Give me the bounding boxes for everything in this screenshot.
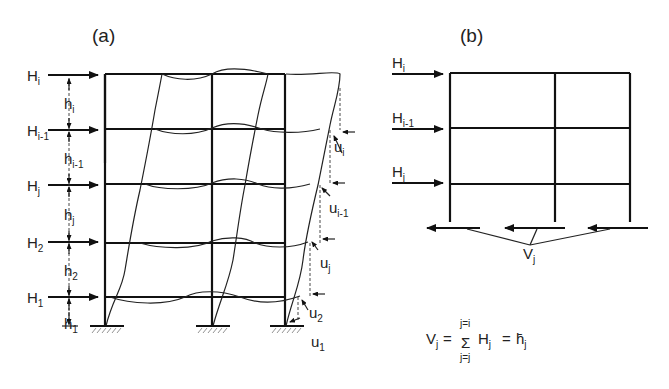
panel-a: (a) <box>27 25 355 353</box>
svg-text:u2: u2 <box>309 304 323 324</box>
svg-text:h̄j: h̄j <box>516 330 527 350</box>
deformed-beams <box>110 69 320 303</box>
svg-text:Vj: Vj <box>426 330 438 350</box>
shear-formula: Vj = j=i Σ j=j Hj = h̄j <box>426 318 527 363</box>
svg-text:Hj: Hj <box>27 177 40 197</box>
svg-text:j=i: j=i <box>459 318 470 329</box>
load-labels-a: Hi Hi-1 Hj H2 H1 <box>27 67 49 309</box>
svg-text:Hi: Hi <box>392 54 405 74</box>
svg-text:hi: hi <box>64 95 75 115</box>
svg-text:ui: ui <box>334 138 345 158</box>
svg-text:Hi: Hi <box>27 67 40 87</box>
svg-text:Hi-1: Hi-1 <box>27 122 49 142</box>
deformed-columns <box>106 73 340 326</box>
svg-text:uj: uj <box>320 254 331 274</box>
svg-text:Hi-1: Hi-1 <box>392 109 414 129</box>
svg-text:h2: h2 <box>64 262 78 282</box>
svg-text:=: = <box>443 330 452 347</box>
svg-text:h1: h1 <box>64 315 78 335</box>
shear-label: Vj <box>523 245 535 265</box>
panel-b: (b) Hi Hi-1 Hj Vj <box>392 25 648 265</box>
svg-text:hi-1: hi-1 <box>64 150 84 170</box>
svg-text:ui-1: ui-1 <box>329 199 349 219</box>
panel-b-title: (b) <box>460 25 483 46</box>
frame-a-columns <box>105 74 285 326</box>
svg-text:j=j: j=j <box>459 352 470 363</box>
frame-a-beams <box>105 74 285 297</box>
svg-text:=: = <box>502 330 511 347</box>
frame-b <box>450 73 630 222</box>
svg-text:H2: H2 <box>27 234 44 254</box>
svg-text:Hj: Hj <box>478 330 491 350</box>
fixed-supports <box>90 326 304 333</box>
svg-text:u1: u1 <box>311 333 325 353</box>
svg-text:Hj: Hj <box>392 163 405 183</box>
height-dimension-line <box>62 78 78 326</box>
structural-frame-diagram: (a) <box>0 0 669 389</box>
panel-a-title: (a) <box>92 25 115 46</box>
shear-leader-lines <box>467 229 610 245</box>
svg-text:Σ: Σ <box>461 334 470 351</box>
svg-text:H1: H1 <box>27 289 44 309</box>
